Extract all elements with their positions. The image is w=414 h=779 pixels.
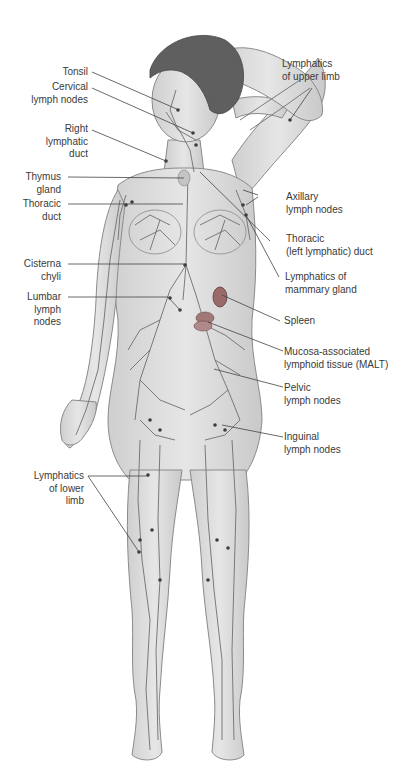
label-line: nodes — [27, 316, 61, 329]
label-line: duct — [23, 211, 61, 224]
label-line: lymph — [27, 304, 61, 317]
label-line: lymph nodes — [284, 444, 341, 457]
label-line: Lumbar — [27, 291, 61, 304]
label-line: limb — [34, 495, 84, 508]
label-line: Tonsil — [62, 66, 88, 79]
label-lymphatics-of-lower-limb: Lymphatics of lower limb — [34, 470, 84, 508]
label-pelvic-lymph-nodes: Pelvic lymph nodes — [284, 382, 341, 407]
label-line: Cervical — [31, 81, 88, 94]
label-line: Spleen — [284, 315, 315, 328]
label-line: Thoracic — [23, 198, 61, 211]
label-line: lymph nodes — [31, 94, 88, 107]
label-thoracic-left-lymphatic-duct: Thoracic (left lymphatic) duct — [286, 233, 373, 258]
label-lymphatics-of-mammary-gland: Lymphatics of mammary gland — [285, 271, 357, 296]
label-thymus-gland: Thymus gland — [25, 171, 61, 196]
label-line: lymphatic — [46, 136, 88, 149]
label-tonsil: Tonsil — [62, 66, 88, 79]
label-inguinal-lymph-nodes: Inguinal lymph nodes — [284, 431, 341, 456]
label-line: (left lymphatic) duct — [286, 246, 373, 259]
label-axillary-lymph-nodes: Axillary lymph nodes — [286, 191, 343, 216]
label-line: of lower — [34, 483, 84, 496]
label-line: chyli — [24, 271, 61, 284]
label-line: Thoracic — [286, 233, 373, 246]
label-malt: Mucosa-associated lymphoid tissue (MALT) — [284, 346, 388, 371]
label-line: Right — [46, 123, 88, 136]
label-line: Lymphatics — [282, 58, 340, 71]
label-line: mammary gland — [285, 284, 357, 297]
label-cervical-lymph-nodes: Cervical lymph nodes — [31, 81, 88, 106]
label-line: Pelvic — [284, 382, 341, 395]
label-line: gland — [25, 184, 61, 197]
label-line: Lymphatics of — [285, 271, 357, 284]
label-line: Inguinal — [284, 431, 341, 444]
label-spleen: Spleen — [284, 315, 315, 328]
label-thoracic-duct: Thoracic duct — [23, 198, 61, 223]
label-lumbar-lymph-nodes: Lumbar lymph nodes — [27, 291, 61, 329]
label-right-lymphatic-duct: Right lymphatic duct — [46, 123, 88, 161]
label-line: Thymus — [25, 171, 61, 184]
label-line: of upper limb — [282, 71, 340, 84]
label-line: Mucosa-associated — [284, 346, 388, 359]
label-lymphatics-of-upper-limb: Lymphatics of upper limb — [282, 58, 340, 83]
label-line: Lymphatics — [34, 470, 84, 483]
label-cisterna-chyli: Cisterna chyli — [24, 258, 61, 283]
label-line: lymph nodes — [286, 204, 343, 217]
label-line: lymphoid tissue (MALT) — [284, 359, 388, 372]
label-line: Axillary — [286, 191, 343, 204]
lymphatic-system-figure — [0, 0, 414, 779]
spleen — [213, 287, 227, 307]
label-line: Cisterna — [24, 258, 61, 271]
label-line: lymph nodes — [284, 395, 341, 408]
label-line: duct — [46, 148, 88, 161]
